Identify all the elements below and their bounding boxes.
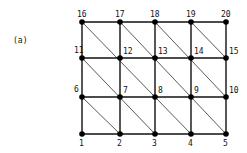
diagonal-edge: [82, 97, 120, 134]
mesh-diagram: [0, 0, 247, 153]
node: [117, 94, 123, 100]
node-label: 18: [150, 11, 160, 19]
node-label: 4: [188, 140, 193, 148]
node: [152, 19, 158, 25]
node-label: 15: [229, 48, 239, 56]
node-label: 3: [152, 140, 157, 148]
node-label: 14: [194, 48, 204, 56]
node: [79, 19, 85, 25]
node: [223, 94, 229, 100]
node-label: 20: [221, 11, 231, 19]
node-label: 13: [158, 48, 168, 56]
node-label: 11: [74, 47, 84, 55]
node-label: 8: [158, 87, 163, 95]
node: [152, 131, 158, 137]
node-label: 9: [194, 87, 199, 95]
node-label: 5: [223, 140, 228, 148]
node: [188, 19, 194, 25]
node-label: 7: [123, 87, 128, 95]
node-label: 6: [74, 86, 79, 94]
node: [152, 94, 158, 100]
diagonal-edge: [82, 22, 191, 134]
node-label: 10: [229, 87, 239, 95]
node: [117, 19, 123, 25]
node-label: 12: [123, 48, 133, 56]
node-label: 17: [115, 11, 125, 19]
node: [79, 131, 85, 137]
node: [152, 55, 158, 61]
node-label: 2: [117, 140, 122, 148]
node: [188, 131, 194, 137]
node: [223, 131, 229, 137]
diagonal-edge: [120, 22, 226, 134]
node: [188, 94, 194, 100]
node-label: 16: [77, 11, 87, 19]
node-label: 1: [79, 140, 84, 148]
node: [188, 55, 194, 61]
node: [223, 55, 229, 61]
node: [79, 55, 85, 61]
node-label: 19: [186, 11, 196, 19]
node: [223, 19, 229, 25]
node: [117, 131, 123, 137]
node: [79, 94, 85, 100]
node: [117, 55, 123, 61]
